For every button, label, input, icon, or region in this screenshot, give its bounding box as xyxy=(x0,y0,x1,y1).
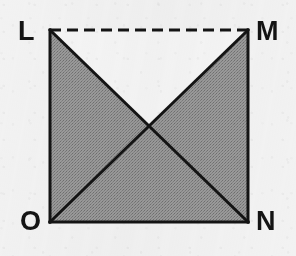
vertex-label-N: N xyxy=(256,208,276,235)
vertex-label-M: M xyxy=(256,18,279,45)
geometry-figure-canvas: L M N O xyxy=(0,0,296,256)
square-diagonals-diagram xyxy=(0,0,296,256)
vertex-label-L: L xyxy=(18,18,35,45)
vertex-label-O: O xyxy=(20,208,41,235)
